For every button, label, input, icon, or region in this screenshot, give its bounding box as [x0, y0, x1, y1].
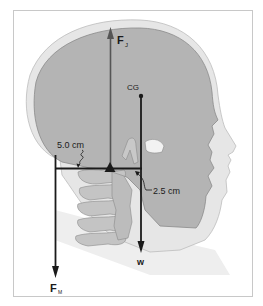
cervical-vertebrae	[76, 170, 133, 246]
weight-label: w	[136, 257, 145, 267]
weight-lever-arm-label: 2.5 cm	[153, 186, 180, 196]
head-torque-diagram: F J CG w F M 5.0 cm 2.5 cm	[0, 0, 263, 306]
muscle-force-label: F	[50, 282, 57, 294]
joint-force-label: F	[117, 34, 124, 46]
center-of-gravity-label: CG	[127, 83, 139, 92]
joint-force-subscript: J	[125, 42, 128, 48]
muscle-lever-arm-label: 5.0 cm	[57, 140, 84, 150]
muscle-force-subscript: M	[58, 289, 62, 295]
